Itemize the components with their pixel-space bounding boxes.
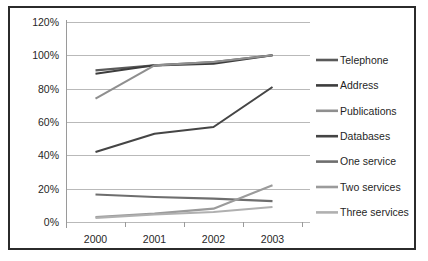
series-line-databases — [96, 87, 273, 152]
line-chart: 0%20%40%60%80%100%120% 2000200120022003 … — [10, 8, 418, 252]
legend-label-two-services: Two services — [340, 181, 401, 193]
x-axis-tick-label: 2001 — [143, 233, 167, 245]
series-line-three-services — [96, 207, 273, 218]
chart-legend: TelephoneAddressPublicationsDatabasesOne… — [316, 54, 409, 218]
y-axis-tick-label: 40% — [38, 149, 59, 161]
y-axis-tick-label: 0% — [44, 216, 59, 228]
y-axis-tick-label: 20% — [38, 183, 59, 195]
y-axis-tick-labels: 0%20%40%60%80%100%120% — [32, 16, 59, 228]
y-axis-tick-label: 120% — [32, 16, 59, 28]
legend-label-address: Address — [340, 79, 379, 91]
y-axis-tick-label: 60% — [38, 116, 59, 128]
legend-label-one-service: One service — [340, 155, 396, 167]
x-axis-tick-label: 2003 — [261, 233, 285, 245]
x-axis-tick-label: 2002 — [202, 233, 226, 245]
y-axis-tick-label: 80% — [38, 83, 59, 95]
legend-label-three-services: Three services — [340, 206, 409, 218]
series-line-publications — [96, 55, 273, 98]
legend-label-databases: Databases — [340, 130, 390, 142]
chart-frame: 0%20%40%60%80%100%120% 2000200120022003 … — [8, 6, 416, 250]
chart-plot-wrapper: 0%20%40%60%80%100%120% 2000200120022003 … — [10, 8, 418, 252]
gridlines-group — [66, 20, 310, 228]
data-series-group — [96, 55, 273, 218]
legend-label-telephone: Telephone — [340, 54, 389, 66]
x-axis-tick-label: 2000 — [84, 233, 108, 245]
y-axis-tick-label: 100% — [32, 49, 59, 61]
x-axis-tick-labels: 2000200120022003 — [84, 233, 285, 245]
legend-label-publications: Publications — [340, 105, 397, 117]
